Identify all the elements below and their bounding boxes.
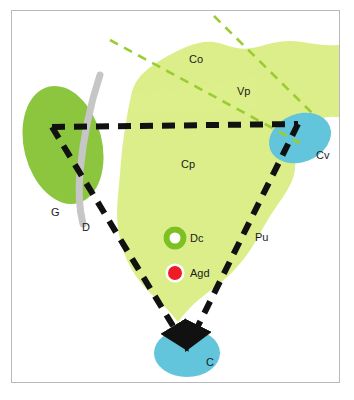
region-label-Vp: Vp [237, 86, 250, 97]
region-label-G: G [51, 207, 60, 218]
figure-canvas: G D Co Vp Cp Cv Pu C Dc Agd [0, 0, 354, 400]
dot-marker-icon [168, 266, 182, 280]
region-label-D: D [82, 222, 90, 233]
region-shape-c [154, 329, 220, 377]
figure-graphics [0, 0, 354, 400]
region-shape-globus [11, 77, 116, 212]
region-label-Pu: Pu [255, 232, 268, 243]
region-label-Co: Co [189, 54, 203, 65]
region-label-Cp: Cp [181, 159, 195, 170]
region-label-Cv: Cv [316, 150, 329, 161]
region-label-C: C [206, 357, 214, 368]
marker-label-Dc: Dc [190, 233, 203, 244]
marker-label-Agd: Agd [190, 268, 210, 279]
ring-marker-icon-center [171, 234, 179, 242]
